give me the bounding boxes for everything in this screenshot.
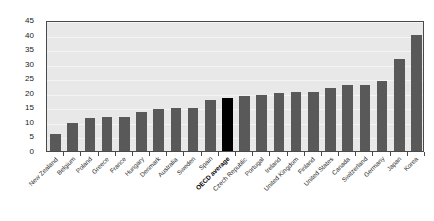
bar	[239, 96, 250, 151]
bar	[50, 134, 61, 151]
bar	[377, 81, 388, 151]
bar	[153, 109, 164, 151]
bar	[291, 92, 302, 151]
x-tick-label: Korea	[403, 156, 420, 173]
bar	[188, 108, 199, 151]
y-tick-label: 35	[25, 46, 34, 54]
y-tick-label: 25	[25, 75, 34, 83]
bar-chart: 051015202530354045 New ZealandBelgiumPol…	[0, 0, 434, 221]
y-tick-label: 5	[30, 133, 34, 141]
bar	[85, 118, 96, 151]
y-tick-label: 15	[25, 104, 34, 112]
bar	[308, 92, 319, 151]
y-tick-label: 40	[25, 32, 34, 40]
bar	[205, 100, 216, 151]
y-tick-label: 0	[30, 148, 34, 156]
x-tick-label: Poland	[75, 156, 94, 175]
x-tick-mark	[424, 152, 425, 156]
bars-layer	[47, 22, 423, 151]
y-tick-label: 20	[25, 90, 34, 98]
bar	[325, 88, 336, 151]
y-axis: 051015202530354045	[0, 21, 40, 152]
bar	[136, 112, 147, 151]
bar	[222, 98, 233, 151]
x-tick-label: Sweden	[176, 156, 197, 177]
x-tick-label: Greece	[91, 156, 110, 175]
bar	[411, 35, 422, 151]
y-tick-label: 10	[25, 119, 34, 127]
bar	[67, 123, 78, 151]
y-tick-label: 45	[25, 17, 34, 25]
bar	[256, 95, 267, 151]
x-tick-label: Japan	[386, 156, 403, 173]
y-tick-label: 30	[25, 61, 34, 69]
bar	[394, 59, 405, 151]
bar	[360, 85, 371, 151]
x-axis: New ZealandBelgiumPolandGreeceFranceHung…	[46, 156, 424, 220]
bar	[342, 85, 353, 151]
bar	[171, 108, 182, 151]
bar	[274, 93, 285, 151]
plot-area	[46, 21, 424, 152]
bar	[119, 117, 130, 151]
x-tick-label: New Zealand	[28, 156, 59, 187]
bar	[102, 117, 113, 151]
